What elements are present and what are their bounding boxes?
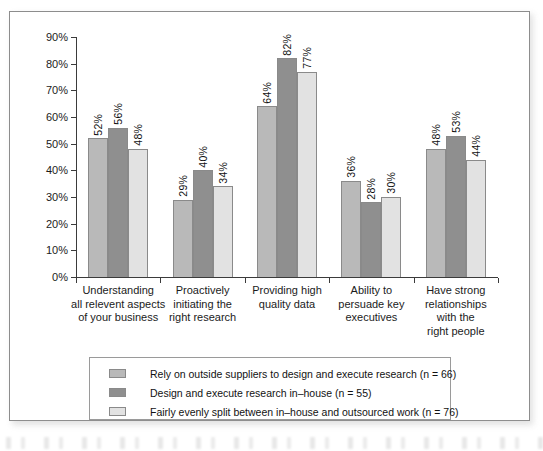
bar-value-label: 52% — [92, 114, 104, 136]
category-label-line: all relevent aspects — [70, 298, 166, 312]
y-axis-tick-label: 70% — [28, 85, 68, 95]
y-axis-tick-label: 30% — [28, 192, 68, 202]
y-axis-tick-mark — [71, 224, 76, 225]
y-axis-tick-label: 40% — [28, 165, 68, 175]
legend-swatch-icon — [109, 369, 126, 378]
legend-item-label: Rely on outside suppliers to design and … — [150, 368, 456, 380]
bar[interactable] — [361, 202, 381, 277]
chart-legend: Rely on outside suppliers to design and … — [89, 357, 451, 420]
y-axis-tick-label: 60% — [28, 112, 68, 122]
x-axis-tick-mark — [498, 278, 499, 283]
bar-value-label: 30% — [385, 172, 397, 194]
y-axis-tick-label: 10% — [28, 245, 68, 255]
bar-value-label: 82% — [281, 34, 293, 56]
y-axis-tick-label: 20% — [28, 219, 68, 229]
legend-item: Fairly evenly split between in–house and… — [90, 403, 450, 420]
bar[interactable] — [193, 170, 213, 277]
y-axis-tick-mark — [71, 144, 76, 145]
y-axis-tick-mark — [71, 117, 76, 118]
bar-value-label: 48% — [430, 124, 442, 146]
x-axis-tick-mark — [414, 278, 415, 283]
legend-swatch-icon — [109, 407, 126, 416]
bar-value-label: 48% — [132, 124, 144, 146]
bar[interactable] — [277, 58, 297, 277]
category-label-line: right research — [154, 311, 250, 325]
category-label-line: Providing high — [239, 284, 335, 298]
x-axis-category-label: Have strongrelationshipswith theright pe… — [408, 284, 504, 338]
category-label-line: quality data — [239, 298, 335, 312]
category-label-line: Ability to — [323, 284, 419, 298]
bar-value-label: 44% — [470, 135, 482, 157]
category-label-line: Understanding — [70, 284, 166, 298]
bar[interactable] — [341, 181, 361, 277]
bar-value-label: 29% — [177, 175, 189, 197]
bar-group: 64%82%77% — [257, 37, 317, 277]
category-label-line: executives — [323, 311, 419, 325]
category-label-line: Proactively — [154, 284, 250, 298]
x-axis-category-label: Providing highquality data — [239, 284, 335, 311]
x-axis-category-label: Ability topersuade keyexecutives — [323, 284, 419, 325]
bar-value-label: 56% — [112, 103, 124, 125]
x-axis-tick-mark — [76, 278, 77, 283]
category-label-line: of your business — [70, 311, 166, 325]
y-axis-tick-mark — [71, 170, 76, 171]
y-axis-line — [76, 37, 77, 277]
bar-group: 29%40%34% — [173, 37, 233, 277]
category-label-line: persuade key — [323, 298, 419, 312]
legend-item: Rely on outside suppliers to design and … — [90, 365, 450, 382]
bar[interactable] — [88, 138, 108, 277]
bar-group: 48%53%44% — [426, 37, 486, 277]
scan-smudge — [0, 437, 543, 449]
y-axis-tick-mark — [71, 64, 76, 65]
y-axis-tick-mark — [71, 250, 76, 251]
bar[interactable] — [381, 197, 401, 277]
y-axis-tick-label: 90% — [28, 32, 68, 42]
bar-value-label: 40% — [197, 146, 209, 168]
bar[interactable] — [213, 186, 233, 277]
legend-item: Design and execute research in–house (n … — [90, 384, 450, 401]
category-label-line: right people — [408, 325, 504, 339]
bar[interactable] — [297, 72, 317, 277]
y-axis-tick-mark — [71, 197, 76, 198]
x-axis-tick-mark — [160, 278, 161, 283]
y-axis-tick-label: 80% — [28, 59, 68, 69]
bar-value-label: 34% — [217, 162, 229, 184]
bar[interactable] — [173, 200, 193, 277]
x-axis-tick-mark — [329, 278, 330, 283]
y-axis-tick-label: 50% — [28, 139, 68, 149]
x-axis-category-label: Understandingall relevent aspectsof your… — [70, 284, 166, 325]
bar-value-label: 36% — [345, 156, 357, 178]
bar-value-label: 64% — [261, 82, 273, 104]
bar[interactable] — [446, 136, 466, 277]
category-label-line: Have strong — [408, 284, 504, 298]
y-axis-tick-mark — [71, 90, 76, 91]
bar-value-label: 28% — [365, 178, 377, 200]
category-label-line: with the — [408, 311, 504, 325]
bar-group: 52%56%48% — [88, 37, 148, 277]
x-axis-category-label: Proactivelyinitiating theright research — [154, 284, 250, 325]
legend-item-label: Fairly evenly split between in–house and… — [150, 406, 458, 418]
y-axis-tick-mark — [71, 37, 76, 38]
bar-value-label: 53% — [450, 111, 462, 133]
bar-chart: 0%10%20%30%40%50%60%70%80%90% 52%56%48%2… — [10, 12, 529, 420]
x-axis-tick-mark — [245, 278, 246, 283]
legend-item-label: Design and execute research in–house (n … — [150, 387, 372, 399]
bar[interactable] — [128, 149, 148, 277]
category-label-line: initiating the — [154, 298, 250, 312]
bar-group: 36%28%30% — [341, 37, 401, 277]
category-label-line: relationships — [408, 298, 504, 312]
y-axis-tick-label: 0% — [28, 272, 68, 282]
x-axis-line — [76, 277, 498, 278]
bar-value-label: 77% — [301, 47, 313, 69]
bar[interactable] — [426, 149, 446, 277]
chart-sheet: 0%10%20%30%40%50%60%70%80%90% 52%56%48%2… — [9, 11, 530, 421]
legend-swatch-icon — [109, 388, 126, 397]
bar[interactable] — [466, 160, 486, 277]
bar[interactable] — [257, 106, 277, 277]
bar[interactable] — [108, 128, 128, 277]
